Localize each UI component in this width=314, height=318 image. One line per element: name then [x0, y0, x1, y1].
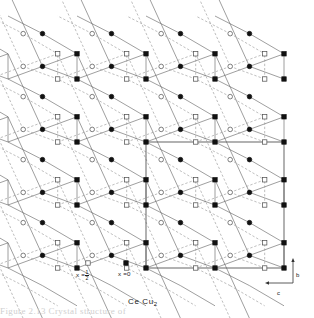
bond-dashed	[92, 192, 127, 205]
atom-filled-square	[282, 203, 286, 207]
atom-open-circle	[228, 220, 233, 225]
atom-filled-circle	[247, 94, 252, 99]
atom-filled-circle	[40, 157, 45, 162]
bond-solid	[250, 160, 285, 180]
atom-open-circle	[90, 94, 95, 99]
atom-open-circle	[159, 190, 164, 195]
atom-filled-circle	[40, 190, 45, 195]
atom-open-square	[262, 115, 266, 119]
bond-dashed	[0, 268, 23, 286]
atom-open-square	[193, 77, 197, 81]
bond-dashed	[127, 16, 161, 34]
bond-solid	[250, 34, 285, 54]
atom-filled-circle	[40, 253, 45, 258]
bond-solid	[43, 223, 78, 243]
bond-dashed	[230, 192, 265, 205]
atom-filled-circle	[178, 220, 183, 225]
bond-solid	[146, 255, 181, 268]
atom-filled-circle	[178, 64, 183, 69]
bond-solid	[250, 97, 285, 117]
bond-dashed	[230, 117, 265, 130]
bond-solid	[146, 205, 181, 223]
legend-open-square-icon	[86, 261, 90, 265]
atom-filled-square	[144, 178, 148, 182]
atom-filled-circle	[247, 157, 252, 162]
bond-dashed	[0, 117, 23, 193]
atom-open-circle	[90, 253, 95, 258]
bond-solid	[112, 223, 147, 243]
atom-filled-square	[213, 178, 217, 182]
bond-dashed	[161, 97, 196, 117]
atom-filled-circle	[178, 253, 183, 258]
atom-filled-square	[213, 52, 217, 56]
atom-filled-circle	[40, 127, 45, 132]
bond-dashed	[23, 34, 58, 54]
atom-open-circle	[228, 31, 233, 36]
atom-open-square	[193, 178, 197, 182]
bond-dashed	[161, 243, 196, 256]
bond-dashed	[92, 129, 127, 142]
atom-filled-square	[213, 203, 217, 207]
axis-c-arrowhead	[265, 281, 269, 284]
bond-dashed	[23, 117, 58, 130]
bond-solid	[112, 286, 147, 306]
bond-solid	[250, 286, 285, 306]
atom-open-circle	[228, 94, 233, 99]
bond-dashed	[58, 16, 93, 34]
bond-dashed	[161, 255, 196, 268]
atom-filled-circle	[247, 220, 252, 225]
atom-filled-square	[144, 266, 148, 270]
atom-open-square	[55, 241, 59, 245]
bond-dashed	[196, 79, 231, 97]
bond-solid	[215, 192, 250, 205]
bond-solid	[215, 268, 250, 286]
bond-dashed	[230, 160, 265, 180]
atom-open-square	[124, 140, 128, 144]
bond-dashed	[23, 66, 58, 79]
crystal-structure-diagram	[0, 0, 314, 318]
bond-solid	[77, 205, 112, 223]
bond-dashed	[23, 192, 58, 205]
bond-dashed	[161, 286, 196, 306]
atom-filled-square	[213, 241, 217, 245]
atom-filled-square	[213, 266, 217, 270]
bond-solid	[0, 223, 8, 243]
bond-solid	[8, 66, 43, 79]
atom-open-square	[262, 266, 266, 270]
bond-solid	[43, 34, 78, 54]
atom-filled-circle	[247, 31, 252, 36]
bond-solid	[250, 223, 285, 243]
bond-dashed	[92, 180, 127, 193]
bond-dashed	[23, 129, 58, 142]
legend-symbols	[86, 261, 128, 265]
atom-open-square	[55, 140, 59, 144]
atom-filled-circle	[247, 127, 252, 132]
bond-dashed	[230, 34, 265, 54]
bond-dashed	[58, 0, 93, 66]
atom-filled-square	[282, 178, 286, 182]
bond-dashed	[230, 255, 265, 268]
atom-filled-square	[213, 140, 217, 144]
atom-layer	[21, 31, 286, 270]
bond-dashed	[161, 180, 196, 193]
bond-solid	[8, 192, 43, 205]
atom-filled-square	[282, 115, 286, 119]
bond-solid	[112, 34, 147, 54]
atom-filled-circle	[247, 253, 252, 258]
bond-dashed	[92, 34, 127, 54]
bond-solid	[0, 117, 8, 130]
bond-solid	[8, 129, 43, 142]
atom-open-circle	[228, 127, 233, 132]
bond-dashed	[161, 223, 196, 243]
bond-dashed	[23, 255, 58, 268]
bond-solid	[215, 79, 250, 97]
atom-open-circle	[159, 157, 164, 162]
bond-dashed	[92, 243, 127, 256]
bond-dashed	[0, 54, 23, 130]
caption-fragment: Figure 2.13 Crystal structure of	[0, 306, 314, 318]
bond-solid	[215, 255, 250, 268]
atom-filled-square	[75, 241, 79, 245]
bond-solid	[0, 34, 8, 54]
bond-solid	[112, 97, 147, 117]
atom-open-circle	[21, 94, 26, 99]
